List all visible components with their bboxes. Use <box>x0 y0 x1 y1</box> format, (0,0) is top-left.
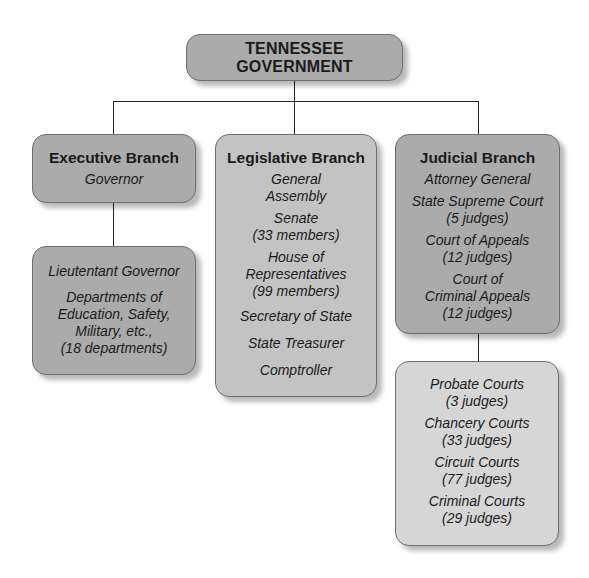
legislative-comptroller: Comptroller <box>260 362 332 379</box>
connector-judicial <box>478 101 479 134</box>
judicial-attorney-general: Attorney General <box>425 171 531 188</box>
line: Lieutentant Governor <box>48 263 180 280</box>
line: House of <box>245 249 346 266</box>
judicial-court-of-appeals: Court of Appeals (12 judges) <box>426 232 530 266</box>
executive-branch-title: Executive Branch <box>49 149 179 167</box>
line: State Supreme Court <box>412 193 544 210</box>
line: (33 members) <box>252 227 339 244</box>
legislative-branch-title: Legislative Branch <box>227 149 365 167</box>
line: (12 judges) <box>426 249 530 266</box>
executive-sub-node: Lieutentant Governor Departments of Educ… <box>32 246 196 375</box>
line: Criminal Appeals <box>425 288 530 305</box>
line: (12 judges) <box>425 305 530 322</box>
judicial-supreme-court: State Supreme Court (5 judges) <box>412 193 544 227</box>
line: Military, etc., <box>58 323 171 340</box>
legislative-state-treasurer: State Treasurer <box>248 335 344 352</box>
line: Court of Appeals <box>426 232 530 249</box>
executive-governor: Governor <box>85 171 143 188</box>
connector-executive-sub <box>113 203 114 246</box>
line: Probate Courts <box>430 376 524 393</box>
judicial-criminal-appeals: Court of Criminal Appeals (12 judges) <box>425 271 530 322</box>
line: State Treasurer <box>248 335 344 352</box>
line: Court of <box>425 271 530 288</box>
connector-horizontal <box>113 101 479 102</box>
judicial-lower-courts-node: Probate Courts (3 judges) Chancery Court… <box>395 361 559 546</box>
chancery-courts: Chancery Courts (33 judges) <box>424 415 529 449</box>
connector-legislative <box>294 101 295 134</box>
line: Representatives <box>245 266 346 283</box>
line: Chancery Courts <box>424 415 529 432</box>
line: Circuit Courts <box>435 454 520 471</box>
connector-judicial-sub <box>478 334 479 361</box>
legislative-general-assembly: General Assembly <box>266 171 327 205</box>
line: (29 judges) <box>429 510 525 527</box>
criminal-courts: Criminal Courts (29 judges) <box>429 493 525 527</box>
line: Comptroller <box>260 362 332 379</box>
connector-root-down <box>294 80 295 101</box>
judicial-branch-title: Judicial Branch <box>420 149 535 167</box>
line: (99 members) <box>245 283 346 300</box>
line: General <box>266 171 327 188</box>
circuit-courts: Circuit Courts (77 judges) <box>435 454 520 488</box>
line: Education, Safety, <box>58 306 171 323</box>
line: Attorney General <box>425 171 531 188</box>
line: (3 judges) <box>430 393 524 410</box>
executive-lt-governor: Lieutentant Governor <box>48 263 180 280</box>
legislative-senate: Senate (33 members) <box>252 210 339 244</box>
judicial-branch-node: Judicial Branch Attorney General State S… <box>395 134 560 334</box>
legislative-secretary-of-state: Secretary of State <box>240 308 352 325</box>
root-title: TENNESSEE GOVERNMENT <box>187 40 402 76</box>
line: (18 departments) <box>58 340 171 357</box>
root-node: TENNESSEE GOVERNMENT <box>186 34 403 81</box>
line: (77 judges) <box>435 471 520 488</box>
line: (33 judges) <box>424 432 529 449</box>
executive-branch-node: Executive Branch Governor <box>32 134 196 203</box>
legislative-house: House of Representatives (99 members) <box>245 249 346 300</box>
connector-executive <box>113 101 114 134</box>
executive-departments: Departments of Education, Safety, Milita… <box>58 289 171 357</box>
line: Criminal Courts <box>429 493 525 510</box>
probate-courts: Probate Courts (3 judges) <box>430 376 524 410</box>
line: (5 judges) <box>412 210 544 227</box>
line: Secretary of State <box>240 308 352 325</box>
legislative-branch-node: Legislative Branch General Assembly Sena… <box>215 134 377 397</box>
line: Departments of <box>58 289 171 306</box>
line: Assembly <box>266 188 327 205</box>
line: Senate <box>252 210 339 227</box>
